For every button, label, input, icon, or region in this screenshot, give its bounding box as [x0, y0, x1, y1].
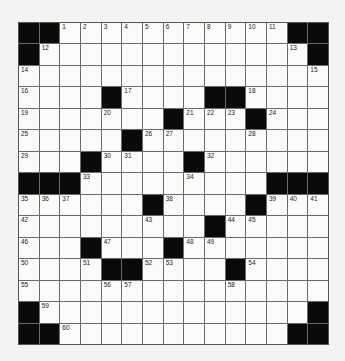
letter-cell[interactable]: 35	[19, 195, 39, 215]
letter-cell[interactable]: 22	[205, 109, 225, 129]
letter-cell[interactable]: 9	[226, 23, 246, 43]
letter-cell[interactable]	[81, 66, 101, 86]
letter-cell[interactable]	[308, 109, 328, 129]
letter-cell[interactable]	[246, 324, 266, 344]
letter-cell[interactable]: 14	[19, 66, 39, 86]
letter-cell[interactable]: 49	[205, 238, 225, 258]
letter-cell[interactable]	[226, 130, 246, 150]
letter-cell[interactable]	[205, 44, 225, 64]
letter-cell[interactable]: 31	[122, 152, 142, 172]
letter-cell[interactable]	[267, 87, 287, 107]
letter-cell[interactable]	[226, 238, 246, 258]
letter-cell[interactable]	[122, 216, 142, 236]
letter-cell[interactable]	[143, 238, 163, 258]
letter-cell[interactable]: 54	[246, 259, 266, 279]
letter-cell[interactable]	[288, 109, 308, 129]
letter-cell[interactable]: 46	[19, 238, 39, 258]
letter-cell[interactable]	[40, 259, 60, 279]
letter-cell[interactable]	[226, 195, 246, 215]
letter-cell[interactable]	[288, 238, 308, 258]
letter-cell[interactable]	[308, 238, 328, 258]
letter-cell[interactable]	[267, 302, 287, 322]
letter-cell[interactable]	[40, 238, 60, 258]
letter-cell[interactable]	[164, 281, 184, 301]
letter-cell[interactable]	[164, 152, 184, 172]
letter-cell[interactable]	[226, 324, 246, 344]
letter-cell[interactable]	[122, 302, 142, 322]
letter-cell[interactable]: 28	[246, 130, 266, 150]
letter-cell[interactable]: 13	[288, 44, 308, 64]
letter-cell[interactable]: 34	[184, 173, 204, 193]
letter-cell[interactable]: 7	[184, 23, 204, 43]
letter-cell[interactable]: 6	[164, 23, 184, 43]
letter-cell[interactable]: 36	[40, 195, 60, 215]
letter-cell[interactable]: 56	[102, 281, 122, 301]
letter-cell[interactable]: 50	[19, 259, 39, 279]
letter-cell[interactable]	[288, 216, 308, 236]
letter-cell[interactable]: 2	[81, 23, 101, 43]
letter-cell[interactable]	[81, 195, 101, 215]
letter-cell[interactable]	[288, 87, 308, 107]
letter-cell[interactable]: 41	[308, 195, 328, 215]
letter-cell[interactable]	[226, 66, 246, 86]
letter-cell[interactable]	[288, 66, 308, 86]
letter-cell[interactable]	[246, 173, 266, 193]
letter-cell[interactable]	[205, 324, 225, 344]
letter-cell[interactable]	[267, 259, 287, 279]
letter-cell[interactable]	[122, 324, 142, 344]
letter-cell[interactable]	[143, 324, 163, 344]
letter-cell[interactable]	[267, 238, 287, 258]
letter-cell[interactable]	[164, 87, 184, 107]
letter-cell[interactable]	[226, 152, 246, 172]
letter-cell[interactable]	[246, 66, 266, 86]
letter-cell[interactable]	[184, 324, 204, 344]
letter-cell[interactable]	[205, 195, 225, 215]
letter-cell[interactable]	[81, 216, 101, 236]
letter-cell[interactable]	[226, 302, 246, 322]
letter-cell[interactable]: 51	[81, 259, 101, 279]
letter-cell[interactable]: 37	[60, 195, 80, 215]
letter-cell[interactable]: 23	[226, 109, 246, 129]
letter-cell[interactable]	[184, 130, 204, 150]
letter-cell[interactable]	[184, 302, 204, 322]
letter-cell[interactable]	[40, 130, 60, 150]
letter-cell[interactable]	[143, 87, 163, 107]
letter-cell[interactable]	[143, 44, 163, 64]
letter-cell[interactable]	[164, 324, 184, 344]
letter-cell[interactable]: 43	[143, 216, 163, 236]
letter-cell[interactable]: 15	[308, 66, 328, 86]
letter-cell[interactable]	[288, 302, 308, 322]
letter-cell[interactable]	[246, 281, 266, 301]
letter-cell[interactable]	[308, 87, 328, 107]
letter-cell[interactable]	[246, 302, 266, 322]
letter-cell[interactable]: 5	[143, 23, 163, 43]
letter-cell[interactable]	[143, 152, 163, 172]
letter-cell[interactable]	[205, 259, 225, 279]
letter-cell[interactable]	[122, 173, 142, 193]
letter-cell[interactable]	[226, 173, 246, 193]
letter-cell[interactable]	[102, 130, 122, 150]
letter-cell[interactable]	[267, 324, 287, 344]
letter-cell[interactable]	[81, 44, 101, 64]
letter-cell[interactable]	[288, 152, 308, 172]
letter-cell[interactable]	[122, 44, 142, 64]
letter-cell[interactable]	[205, 302, 225, 322]
letter-cell[interactable]: 3	[102, 23, 122, 43]
letter-cell[interactable]	[60, 44, 80, 64]
letter-cell[interactable]	[60, 259, 80, 279]
letter-cell[interactable]	[246, 238, 266, 258]
letter-cell[interactable]	[143, 66, 163, 86]
letter-cell[interactable]	[226, 44, 246, 64]
letter-cell[interactable]	[205, 66, 225, 86]
letter-cell[interactable]	[164, 173, 184, 193]
letter-cell[interactable]	[40, 281, 60, 301]
letter-cell[interactable]: 38	[164, 195, 184, 215]
letter-cell[interactable]: 60	[60, 324, 80, 344]
letter-cell[interactable]: 1	[60, 23, 80, 43]
letter-cell[interactable]	[308, 152, 328, 172]
letter-cell[interactable]	[40, 216, 60, 236]
letter-cell[interactable]	[184, 87, 204, 107]
letter-cell[interactable]	[205, 173, 225, 193]
letter-cell[interactable]	[267, 152, 287, 172]
letter-cell[interactable]	[143, 173, 163, 193]
